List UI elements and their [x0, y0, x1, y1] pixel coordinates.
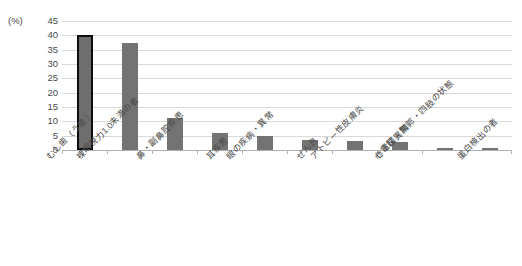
y-axis-tick-label: 40: [47, 30, 58, 40]
y-axis-tick-label: 30: [47, 59, 58, 69]
y-axis-tick-label: 10: [47, 116, 58, 126]
bar: [347, 141, 363, 150]
bar: [257, 136, 273, 150]
y-axis-tick-labels: 051015202530354045: [30, 21, 60, 150]
y-axis-tick-label: 20: [47, 88, 58, 98]
y-axis-tick-label: 35: [47, 45, 58, 55]
y-axis-tick-label: 15: [47, 102, 58, 112]
y-axis-tick-label: 45: [47, 16, 58, 26]
x-axis-category-labels: むし歯（う歯）裸眼視力1.0未満の者鼻・副鼻腔疾患耳疾患眼の疾病・異常ぜん息アト…: [0, 150, 522, 266]
y-axis-tick-label: 25: [47, 73, 58, 83]
y-axis-unit-label: (%): [8, 15, 23, 26]
bar-chart: (%) 051015202530354045 むし歯（う歯）裸眼視力1.0未満の…: [0, 0, 522, 266]
